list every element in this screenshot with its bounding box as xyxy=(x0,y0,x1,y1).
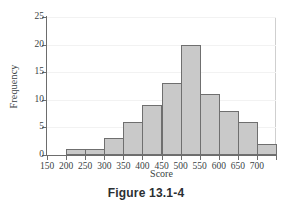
histogram-bar xyxy=(257,144,277,155)
x-tick-750 xyxy=(276,155,277,160)
figure-caption: Figure 13.1-4 xyxy=(0,186,292,200)
gridline-y-15 xyxy=(47,72,276,73)
x-tick-650 xyxy=(238,155,239,160)
gridline-y-25 xyxy=(47,17,276,18)
y-tick-label-10: 10 xyxy=(35,95,45,105)
x-tick-300 xyxy=(104,155,105,160)
y-tick-label-15: 15 xyxy=(35,67,45,77)
y-axis-line xyxy=(46,16,47,156)
histogram-figure: Frequency 0510152025 1502002503003504004… xyxy=(0,0,292,209)
gridline-y-20 xyxy=(47,45,276,46)
x-tick-450 xyxy=(162,155,163,160)
y-tick-label-25: 25 xyxy=(35,12,45,22)
y-axis-title-label: Frequency xyxy=(8,64,19,108)
x-tick-400 xyxy=(142,155,143,160)
y-axis-title: Frequency xyxy=(6,17,20,155)
histogram-bar xyxy=(219,111,239,155)
histogram-bar xyxy=(123,122,143,155)
histogram-bar xyxy=(142,105,162,155)
x-axis-title: Score xyxy=(47,168,276,179)
x-tick-200 xyxy=(66,155,67,160)
x-tick-550 xyxy=(200,155,201,160)
x-tick-250 xyxy=(85,155,86,160)
y-tick-label-5: 5 xyxy=(39,123,44,133)
y-tick-label-0: 0 xyxy=(39,150,44,160)
histogram-bar xyxy=(181,45,201,155)
histogram-bar xyxy=(85,149,105,155)
plot-area: 0510152025 15020025030035040045050055060… xyxy=(47,17,276,155)
histogram-bar xyxy=(200,94,220,155)
histogram-bar xyxy=(66,149,86,155)
x-tick-500 xyxy=(181,155,182,160)
histogram-bar xyxy=(162,83,182,155)
x-tick-600 xyxy=(219,155,220,160)
x-tick-150 xyxy=(47,155,48,160)
x-tick-700 xyxy=(257,155,258,160)
histogram-bar xyxy=(238,122,258,155)
histogram-bar xyxy=(104,138,124,155)
x-tick-350 xyxy=(123,155,124,160)
y-tick-label-20: 20 xyxy=(35,40,45,50)
